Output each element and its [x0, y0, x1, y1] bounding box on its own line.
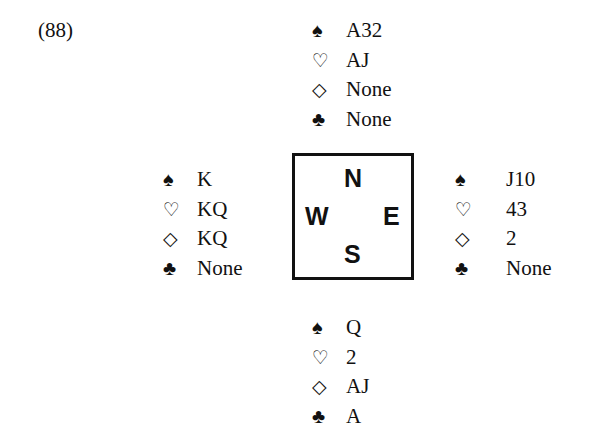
diamond-icon: ◇ [455, 224, 506, 254]
east-hand: ♠J10 ♡43 ◇2 ♣None [455, 165, 552, 283]
north-spades: ♠A32 [312, 16, 392, 46]
north-spades-cards: A32 [346, 16, 382, 46]
diamond-icon: ◇ [312, 372, 346, 402]
north-hand: ♠A32 ♡AJ ◇None ♣None [312, 16, 392, 134]
south-diamonds: ◇AJ [312, 372, 369, 402]
south-diamonds-cards: AJ [346, 372, 369, 402]
north-clubs: ♣None [312, 105, 392, 135]
east-spades: ♠J10 [455, 165, 552, 195]
spade-icon: ♠ [163, 165, 197, 195]
compass-box: N W E S [292, 153, 414, 280]
north-diamonds: ◇None [312, 75, 392, 105]
south-hearts: ♡2 [312, 343, 369, 373]
west-spades-cards: K [197, 165, 212, 195]
heart-icon: ♡ [312, 343, 346, 373]
west-hand: ♠K ♡KQ ◇KQ ♣None [163, 165, 243, 283]
spade-icon: ♠ [455, 165, 506, 195]
diamond-icon: ◇ [163, 224, 197, 254]
club-icon: ♣ [163, 254, 197, 284]
club-icon: ♣ [312, 105, 346, 135]
compass-north: N [344, 164, 362, 193]
east-hearts-cards: 43 [506, 195, 527, 225]
compass-east: E [383, 202, 400, 231]
west-clubs: ♣None [163, 254, 243, 284]
south-hearts-cards: 2 [346, 343, 357, 373]
south-spades: ♠Q [312, 313, 369, 343]
east-diamonds-cards: 2 [506, 224, 517, 254]
south-clubs: ♣A [312, 402, 369, 432]
north-diamonds-cards: None [346, 75, 392, 105]
spade-icon: ♠ [312, 313, 346, 343]
north-hearts: ♡AJ [312, 46, 392, 76]
west-diamonds: ◇KQ [163, 224, 243, 254]
west-hearts: ♡KQ [163, 195, 243, 225]
west-diamonds-cards: KQ [197, 224, 227, 254]
west-spades: ♠K [163, 165, 243, 195]
south-hand: ♠Q ♡2 ◇AJ ♣A [312, 313, 369, 431]
heart-icon: ♡ [455, 195, 506, 225]
east-clubs: ♣None [455, 254, 552, 284]
east-spades-cards: J10 [506, 165, 535, 195]
heart-icon: ♡ [312, 46, 346, 76]
compass-south: S [344, 240, 361, 269]
east-clubs-cards: None [506, 254, 552, 284]
compass-west: W [305, 202, 329, 231]
spade-icon: ♠ [312, 16, 346, 46]
club-icon: ♣ [312, 402, 346, 432]
problem-number: (88) [38, 18, 73, 43]
south-spades-cards: Q [346, 313, 361, 343]
club-icon: ♣ [455, 254, 506, 284]
west-clubs-cards: None [197, 254, 243, 284]
north-clubs-cards: None [346, 105, 392, 135]
west-hearts-cards: KQ [197, 195, 227, 225]
diamond-icon: ◇ [312, 75, 346, 105]
south-clubs-cards: A [346, 402, 361, 432]
east-hearts: ♡43 [455, 195, 552, 225]
heart-icon: ♡ [163, 195, 197, 225]
north-hearts-cards: AJ [346, 46, 369, 76]
east-diamonds: ◇2 [455, 224, 552, 254]
